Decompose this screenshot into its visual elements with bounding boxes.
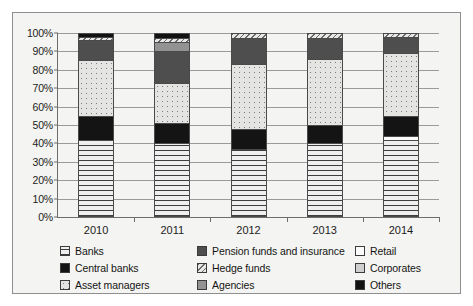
y-axis-tick-mark bbox=[54, 33, 58, 34]
y-axis-tick-mark bbox=[54, 88, 58, 89]
y-axis-tick-label: 0% bbox=[38, 211, 53, 223]
legend-swatch-icon bbox=[60, 280, 70, 290]
bar-segment-pension-funds-and-insurance bbox=[232, 39, 266, 65]
legend-swatch-icon bbox=[197, 263, 207, 273]
y-axis-tick-mark bbox=[54, 106, 58, 107]
legend-label: Agencies bbox=[212, 279, 254, 291]
y-axis-tick-label: 100% bbox=[27, 27, 53, 39]
bar-segment-asset-managers bbox=[155, 84, 189, 124]
bar-segment-banks bbox=[384, 141, 418, 216]
y-axis-tick-label: 50% bbox=[33, 119, 53, 131]
legend-label: Central banks bbox=[75, 262, 138, 274]
legend-item-agencies[interactable]: Agencies bbox=[197, 277, 345, 293]
bar-segment-asset-managers bbox=[308, 60, 342, 126]
y-axis-tick-mark bbox=[54, 217, 58, 218]
y-axis-tick-label: 10% bbox=[33, 193, 53, 205]
x-axis-tick-label: 2013 bbox=[312, 224, 336, 236]
x-axis-tick-mark bbox=[134, 217, 135, 222]
y-axis-tick-mark bbox=[54, 180, 58, 181]
bar-segment-central-banks bbox=[155, 124, 189, 144]
legend-item-banks[interactable]: Banks bbox=[60, 243, 149, 259]
bar-segment-central-banks bbox=[384, 117, 418, 137]
legend-swatch-icon bbox=[197, 246, 207, 256]
legend-swatch-icon bbox=[197, 280, 207, 290]
legend-swatch-icon bbox=[60, 246, 70, 256]
legend-item-hedge-funds[interactable]: Hedge funds bbox=[197, 260, 345, 276]
bar-segment-central-banks bbox=[308, 126, 342, 144]
bar-segment-pension-funds-and-insurance bbox=[384, 38, 418, 55]
bar-segment-banks bbox=[308, 144, 342, 216]
plot-area: 0%10%20%30%40%50%60%70%80%90%100%2010201… bbox=[57, 33, 439, 218]
y-axis-tick-mark bbox=[54, 125, 58, 126]
chart-legend: BanksCentral banksAsset managersPension … bbox=[12, 243, 461, 293]
y-axis-tick-mark bbox=[54, 198, 58, 199]
legend-label: Banks bbox=[75, 245, 104, 257]
legend-swatch-icon bbox=[355, 280, 365, 290]
chart-figure: 0%10%20%30%40%50%60%70%80%90%100%2010201… bbox=[0, 0, 473, 306]
legend-swatch-icon bbox=[355, 263, 365, 273]
x-axis-tick-label: 2014 bbox=[389, 224, 413, 236]
legend-swatch-icon bbox=[60, 263, 70, 273]
stacked-bar-2012[interactable] bbox=[231, 33, 267, 217]
legend-item-asset-managers[interactable]: Asset managers bbox=[60, 277, 149, 293]
legend-label: Corporates bbox=[370, 262, 421, 274]
y-axis-tick-label: 40% bbox=[33, 137, 53, 149]
bar-segment-agencies bbox=[155, 43, 189, 52]
legend-column-3: RetailCorporatesOthers bbox=[355, 243, 421, 294]
stacked-bar-2014[interactable] bbox=[383, 33, 419, 217]
bar-segment-central-banks bbox=[232, 130, 266, 150]
x-axis-tick-label: 2011 bbox=[160, 224, 184, 236]
y-axis-tick-label: 70% bbox=[33, 82, 53, 94]
bar-segment-asset-managers bbox=[79, 61, 113, 116]
stacked-bar-2010[interactable] bbox=[78, 33, 114, 217]
stacked-bar-2013[interactable] bbox=[307, 33, 343, 217]
x-axis-tick-mark bbox=[210, 217, 211, 222]
y-axis-tick-label: 80% bbox=[33, 64, 53, 76]
legend-item-pension-funds-and-insurance[interactable]: Pension funds and insurance bbox=[197, 243, 345, 259]
bar-segment-pension-funds-and-insurance bbox=[308, 39, 342, 59]
legend-label: Pension funds and insurance bbox=[212, 245, 345, 257]
y-axis-tick-label: 30% bbox=[33, 156, 53, 168]
legend-swatch-icon bbox=[355, 246, 365, 256]
bar-segment-pension-funds-and-insurance bbox=[79, 41, 113, 61]
legend-item-others[interactable]: Others bbox=[355, 277, 421, 293]
legend-item-corporates[interactable]: Corporates bbox=[355, 260, 421, 276]
y-axis-tick-label: 20% bbox=[33, 174, 53, 186]
bar-segment-pension-funds-and-insurance bbox=[155, 52, 189, 83]
x-axis-tick-label: 2012 bbox=[236, 224, 260, 236]
x-axis-tick-mark bbox=[363, 217, 364, 222]
bar-segment-banks bbox=[155, 144, 189, 216]
legend-label: Others bbox=[370, 279, 401, 291]
bar-segment-banks bbox=[79, 141, 113, 216]
y-axis-tick-mark bbox=[54, 51, 58, 52]
bar-segment-central-banks bbox=[79, 117, 113, 141]
legend-item-central-banks[interactable]: Central banks bbox=[60, 260, 149, 276]
stacked-bar-2011[interactable] bbox=[154, 33, 190, 217]
legend-column-2: Pension funds and insuranceHedge fundsAg… bbox=[197, 243, 345, 294]
legend-item-retail[interactable]: Retail bbox=[355, 243, 421, 259]
y-axis-tick-mark bbox=[54, 143, 58, 144]
legend-label: Hedge funds bbox=[212, 262, 270, 274]
y-axis-tick-mark bbox=[54, 161, 58, 162]
legend-label: Retail bbox=[370, 245, 396, 257]
bar-segment-asset-managers bbox=[384, 54, 418, 117]
y-axis-tick-label: 90% bbox=[33, 45, 53, 57]
y-axis-tick-mark bbox=[54, 69, 58, 70]
x-axis-tick-mark bbox=[439, 217, 440, 222]
y-axis-tick-label: 60% bbox=[33, 101, 53, 113]
bar-segment-banks bbox=[232, 150, 266, 216]
legend-column-1: BanksCentral banksAsset managers bbox=[60, 243, 149, 294]
x-axis-tick-mark bbox=[287, 217, 288, 222]
legend-label: Asset managers bbox=[75, 279, 149, 291]
bar-segment-asset-managers bbox=[232, 65, 266, 129]
x-axis-tick-label: 2010 bbox=[84, 224, 108, 236]
